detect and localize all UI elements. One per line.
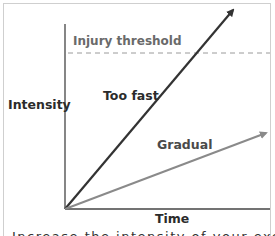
y-axis-label: Intensity bbox=[8, 97, 71, 112]
x-axis-label: Time bbox=[155, 211, 189, 226]
gradual-label: Gradual bbox=[157, 137, 212, 152]
too-fast-label: Too fast bbox=[103, 88, 159, 103]
figure-caption: Increase the intensity of your exercise … bbox=[12, 229, 275, 236]
injury-threshold-label: Injury threshold bbox=[73, 34, 182, 48]
